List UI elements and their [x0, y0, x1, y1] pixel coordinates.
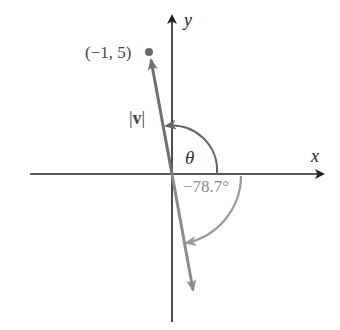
- vector-v: [151, 60, 172, 174]
- magnitude-label: |v|: [129, 109, 145, 127]
- magnitude-bar-right: |: [142, 108, 146, 128]
- theta-label: θ: [185, 148, 194, 167]
- magnitude-symbol: v: [133, 108, 142, 128]
- x-axis-label: x: [311, 147, 319, 165]
- point-marker: [145, 48, 153, 56]
- negative-angle-label: −78.7°: [183, 178, 229, 195]
- point-label: (−1, 5): [85, 44, 131, 61]
- y-axis-label: y: [184, 11, 192, 29]
- vector-diagram: [0, 0, 340, 330]
